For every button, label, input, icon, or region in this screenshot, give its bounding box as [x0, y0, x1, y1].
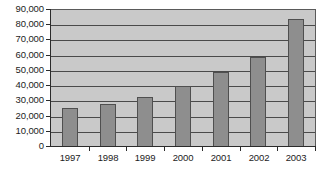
bar-2003 [288, 19, 304, 147]
x-axis-tick-mark [202, 147, 203, 151]
chart-caption [4, 169, 324, 179]
x-axis-tick-mark [126, 147, 127, 151]
y-axis-tick-label: 40,000 [0, 80, 44, 90]
y-axis-tick-mark [46, 131, 51, 132]
x-axis-tick-label: 1997 [51, 152, 89, 163]
y-axis-tick-label: 80,000 [0, 19, 44, 29]
x-axis-tick-label: 2000 [164, 152, 202, 163]
x-axis-tick-mark [89, 147, 90, 151]
y-axis-tick-label: 30,000 [0, 95, 44, 105]
y-axis-tick-mark [46, 55, 51, 56]
x-axis-tick-label: 2001 [202, 152, 240, 163]
plot-area [51, 9, 316, 147]
x-axis-label-group: 1997199819992000200120022003 [51, 152, 315, 165]
x-axis-tick-mark [164, 147, 165, 151]
bar-1999 [137, 97, 153, 147]
y-axis-tick-label: 20,000 [0, 111, 44, 121]
y-axis-tick-label: 70,000 [0, 34, 44, 44]
y-axis-label-group: 010,00020,00030,00040,00050,00060,00070,… [0, 0, 44, 152]
x-axis-tick-label: 1999 [126, 152, 164, 163]
y-axis-tick-mark [46, 24, 51, 25]
y-axis-tick-mark [46, 70, 51, 71]
y-axis-tick-mark [46, 85, 51, 86]
y-axis-tick-label: 50,000 [0, 65, 44, 75]
x-axis-tick-label: 1998 [89, 152, 127, 163]
y-axis-tick-mark [46, 39, 51, 40]
y-axis-tick-label: 90,000 [0, 4, 44, 14]
y-axis-tick-label: 0 [0, 141, 44, 151]
bar-2001 [213, 72, 229, 147]
bar-2000 [175, 86, 191, 147]
bar-1997 [62, 108, 78, 147]
bar-2002 [250, 57, 266, 147]
y-axis-tick-mark [46, 146, 51, 147]
x-axis-tick-label: 2002 [240, 152, 278, 163]
x-axis-tick-mark [315, 147, 316, 151]
y-axis-tick-mark [46, 100, 51, 101]
y-axis-tick-mark [46, 9, 51, 10]
bar-1998 [100, 104, 116, 147]
y-axis-tick-label: 10,000 [0, 126, 44, 136]
y-axis-tick-mark [46, 116, 51, 117]
x-axis-tick-mark [240, 147, 241, 151]
bars-layer [51, 10, 315, 147]
x-axis-tick-mark [277, 147, 278, 151]
bar-chart-figure: 010,00020,00030,00040,00050,00060,00070,… [0, 0, 328, 179]
y-axis-tick-label: 60,000 [0, 50, 44, 60]
x-axis-tick-label: 2003 [277, 152, 315, 163]
